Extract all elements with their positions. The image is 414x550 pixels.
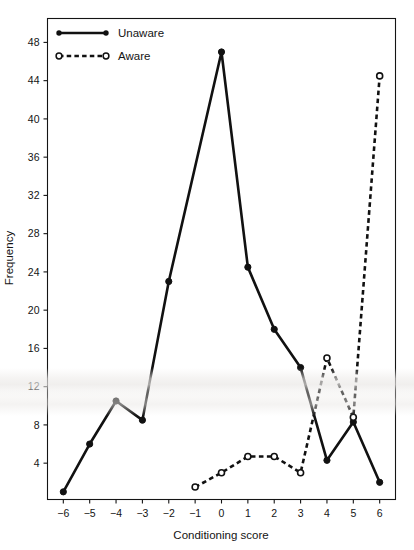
legend-marker-unaware-right — [103, 30, 108, 35]
data-point-unaware — [377, 479, 383, 485]
x-tick-label: 3 — [298, 507, 304, 519]
data-point-aware — [192, 484, 198, 490]
x-tick-label: 4 — [324, 507, 330, 519]
data-point-unaware — [113, 398, 119, 404]
y-tick-label: 48 — [28, 36, 40, 48]
x-tick-label: 1 — [245, 507, 251, 519]
data-point-unaware — [166, 278, 172, 284]
data-point-unaware — [245, 264, 251, 270]
legend-label-aware: Aware — [118, 50, 150, 62]
frequency-line-chart: 4812162024283236404448 −6−5−4−3−2−101234… — [0, 0, 414, 550]
data-point-unaware — [60, 489, 66, 495]
y-tick-label: 32 — [28, 189, 40, 201]
x-axis-title: Conditioning score — [173, 529, 268, 541]
y-tick-label: 4 — [34, 457, 40, 469]
data-point-unaware — [87, 441, 93, 447]
legend-marker-aware-left — [56, 53, 62, 59]
x-tick-label: 2 — [271, 507, 277, 519]
x-axis-ticks: −6−5−4−3−2−10123456 — [57, 500, 382, 519]
x-tick-label: 0 — [219, 507, 225, 519]
y-tick-label: 40 — [28, 113, 40, 125]
y-axis-title: Frequency — [3, 231, 15, 286]
x-tick-label: 5 — [350, 507, 356, 519]
y-tick-label: 16 — [28, 342, 40, 354]
x-tick-label: −2 — [163, 507, 175, 519]
x-tick-label: −6 — [57, 507, 69, 519]
data-point-unaware — [139, 417, 145, 423]
y-axis-ticks: 4812162024283236404448 — [28, 36, 48, 469]
x-tick-label: −5 — [84, 507, 96, 519]
x-tick-label: −4 — [110, 507, 122, 519]
data-point-aware — [377, 73, 383, 79]
y-tick-label: 28 — [28, 227, 40, 239]
data-point-unaware — [297, 364, 303, 370]
y-tick-label: 44 — [28, 74, 40, 86]
data-point-aware — [298, 470, 304, 476]
data-point-unaware — [271, 326, 277, 332]
y-tick-label: 8 — [34, 419, 40, 431]
y-tick-label: 12 — [28, 380, 40, 392]
y-tick-label: 36 — [28, 151, 40, 163]
data-point-aware — [324, 355, 330, 361]
y-tick-label: 24 — [28, 266, 40, 278]
legend-marker-unaware-left — [56, 30, 61, 35]
data-point-aware — [245, 453, 251, 459]
x-tick-label: −1 — [189, 507, 201, 519]
data-point-unaware — [218, 49, 224, 55]
legend-label-unaware: Unaware — [118, 27, 164, 39]
figure-root: 4812162024283236404448 −6−5−4−3−2−101234… — [0, 0, 414, 550]
data-point-unaware — [324, 457, 330, 463]
data-point-aware — [350, 414, 356, 420]
x-tick-label: −3 — [136, 507, 148, 519]
legend-marker-aware-right — [103, 53, 109, 59]
data-point-aware — [271, 453, 277, 459]
y-tick-label: 20 — [28, 304, 40, 316]
x-tick-label: 6 — [377, 507, 383, 519]
data-point-aware — [219, 470, 225, 476]
